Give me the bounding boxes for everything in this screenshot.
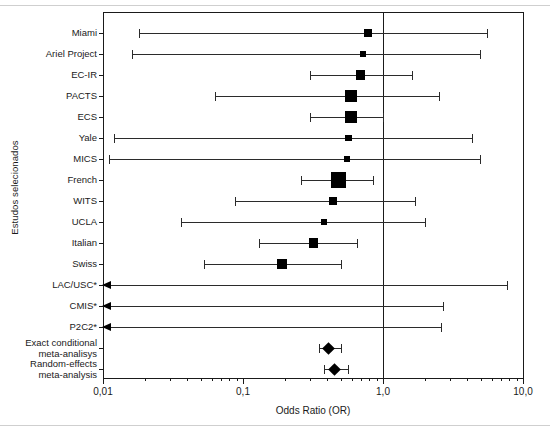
ci-upper-cap: [341, 344, 342, 353]
point-estimate-marker: [329, 197, 338, 206]
study-label: Exact conditional meta-analisys: [1, 338, 97, 359]
y-axis-tick: [99, 138, 104, 139]
x-axis-minor-tick: [425, 378, 426, 381]
point-estimate-marker: [360, 51, 367, 58]
y-axis-tick: [99, 264, 104, 265]
page-rule-bottom: [0, 425, 550, 426]
ci-upper-cap: [441, 323, 442, 332]
ci-upper-cap: [439, 92, 440, 101]
confidence-interval-line: [103, 327, 441, 328]
ci-upper-cap: [480, 50, 481, 59]
x-axis-minor-tick: [341, 378, 342, 381]
x-axis-minor-tick: [352, 378, 353, 381]
ci-upper-cap: [383, 113, 384, 122]
ci-upper-cap: [357, 239, 358, 248]
ci-truncation-arrow-icon: [102, 281, 111, 289]
x-axis-minor-tick: [201, 378, 202, 381]
study-label: French: [1, 175, 97, 186]
x-axis-minor-tick: [285, 378, 286, 381]
ci-upper-cap: [480, 155, 481, 164]
y-axis-tick: [99, 348, 104, 349]
ci-lower-cap: [132, 50, 133, 59]
y-axis-tick: [99, 96, 104, 97]
study-label: Yale: [1, 133, 97, 144]
plot-area: 0,010,11,010,0 MiamiAriel ProjectEC-IRPA…: [103, 12, 524, 379]
ci-lower-cap: [114, 134, 115, 143]
confidence-interval-line: [132, 54, 480, 55]
x-axis-minor-tick: [517, 378, 518, 381]
ci-lower-cap: [181, 218, 182, 227]
x-axis-minor-tick: [212, 378, 213, 381]
confidence-interval-line: [103, 306, 443, 307]
x-axis-minor-tick: [221, 378, 222, 381]
study-label: Ariel Project: [1, 49, 97, 60]
ci-truncation-arrow-icon: [102, 323, 111, 331]
study-label: Random-effects meta-analysis: [1, 359, 97, 380]
x-axis-minor-tick: [237, 378, 238, 381]
study-label: EC-IR: [1, 70, 97, 81]
page-rule-top: [0, 5, 550, 6]
study-label: P2C2*: [1, 322, 97, 333]
ci-upper-cap: [507, 281, 508, 290]
study-label: Swiss: [1, 259, 97, 270]
ci-upper-cap: [443, 302, 444, 311]
plot-frame-right: [523, 12, 524, 379]
ci-upper-cap: [425, 218, 426, 227]
ci-upper-cap: [415, 197, 416, 206]
y-axis-tick: [99, 369, 104, 370]
summary-diamond-marker: [322, 342, 335, 355]
point-estimate-marker: [345, 135, 352, 142]
ci-upper-cap: [348, 365, 349, 374]
y-axis-tick: [99, 75, 104, 76]
ci-lower-cap: [109, 155, 110, 164]
x-axis-label: Odds Ratio (OR): [103, 405, 523, 416]
point-estimate-marker: [331, 172, 347, 188]
x-axis-minor-tick: [327, 378, 328, 381]
x-axis-minor-tick: [229, 378, 230, 381]
ci-upper-cap: [487, 29, 488, 38]
x-axis-minor-tick: [509, 378, 510, 381]
x-axis-minor-tick: [187, 378, 188, 381]
forest-plot-figure: Estudos selecionados Odds Ratio (OR) 0,0…: [0, 0, 550, 438]
ci-lower-cap: [310, 113, 311, 122]
y-axis-tick: [99, 159, 104, 160]
ci-lower-cap: [259, 239, 260, 248]
ci-upper-cap: [412, 71, 413, 80]
ci-upper-cap: [373, 176, 374, 185]
x-axis-minor-tick: [492, 378, 493, 381]
x-axis-minor-tick: [467, 378, 468, 381]
x-axis-minor-tick: [310, 378, 311, 381]
confidence-interval-line: [235, 201, 415, 202]
x-axis-minor-tick: [450, 378, 451, 381]
confidence-interval-line: [114, 138, 472, 139]
x-tick-label: 10,0: [513, 386, 532, 397]
confidence-interval-line: [259, 243, 357, 244]
x-axis-minor-tick: [501, 378, 502, 381]
plot-frame-top: [103, 12, 524, 13]
point-estimate-marker: [309, 238, 319, 248]
x-axis-minor-tick: [170, 378, 171, 381]
study-label: Italian: [1, 238, 97, 249]
x-axis-minor-tick: [145, 378, 146, 381]
study-label: ECS: [1, 112, 97, 123]
y-axis-tick: [99, 243, 104, 244]
confidence-interval-line: [109, 159, 480, 160]
confidence-interval-line: [215, 96, 439, 97]
study-label: LAC/USC*: [1, 280, 97, 291]
point-estimate-marker: [277, 259, 287, 269]
y-axis-tick: [99, 54, 104, 55]
study-label: MICS: [1, 154, 97, 165]
y-axis-tick: [99, 33, 104, 34]
point-estimate-marker: [345, 90, 357, 102]
confidence-interval-line: [204, 264, 340, 265]
y-axis-tick: [99, 117, 104, 118]
ci-lower-cap: [204, 260, 205, 269]
x-axis-major-tick: [383, 378, 384, 384]
y-axis-tick: [99, 201, 104, 202]
ci-lower-cap: [301, 176, 302, 185]
study-label: PACTS: [1, 91, 97, 102]
x-axis-major-tick: [243, 378, 244, 384]
confidence-interval-line: [103, 285, 507, 286]
x-axis-minor-tick: [481, 378, 482, 381]
point-estimate-marker: [344, 156, 350, 162]
